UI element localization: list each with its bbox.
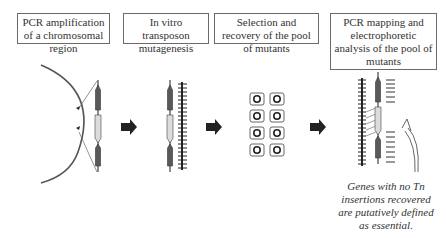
tn-insertions-icon	[358, 78, 376, 166]
pcr-fragment-icon	[167, 80, 173, 172]
mutant-colony-well-icon	[250, 93, 284, 156]
pcr-fragment-icon	[375, 72, 381, 164]
pcr-fragment-icon	[95, 80, 101, 172]
gel-bands-icon	[386, 80, 395, 162]
right-block-arrow-icon	[206, 119, 222, 135]
essential-genes-note: Genes with no Tn insertions recovered ar…	[334, 180, 438, 232]
curved-arrow-icon	[402, 119, 418, 172]
right-block-arrow-icon	[310, 119, 326, 135]
right-block-arrow-icon	[121, 119, 137, 135]
chromosome-arc-icon	[41, 65, 97, 183]
tn-insertions-icon	[178, 82, 187, 170]
